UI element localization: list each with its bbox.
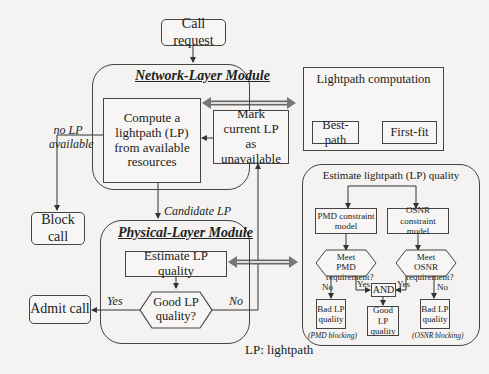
yes-label: Yes [107, 294, 123, 309]
mark-unavailable-node: Mark current LP as unavailable [213, 110, 289, 164]
physical-module-title: Physical-Layer Module [118, 225, 253, 241]
no-label: No [229, 294, 243, 309]
osnr-constraint-model-node: OSNR constraint model [387, 208, 449, 234]
admit-call-node: Admit call [29, 295, 91, 324]
pmd-blocking-label: (PMD blocking) [308, 331, 357, 340]
call-request-node: Call request [161, 19, 226, 46]
legend-text: LP: lightpath [245, 342, 313, 358]
candidate-lp-label: Candidate LP [164, 204, 231, 219]
block-call-node: Block call [31, 212, 85, 245]
estimate-lp-quality-node: Estimate LP quality [125, 251, 227, 277]
network-module-title: Network-Layer Module [135, 68, 270, 84]
bad-lp-quality-pmd-node: Bad LP quality [316, 299, 346, 329]
osnr-blocking-label: (OSNR blocking) [412, 331, 463, 340]
osnr-decision: Meet OSNR requirement? [406, 253, 446, 283]
no-lp-available-label: no LP available [49, 124, 87, 152]
pmd-yes-label: Yes [357, 279, 370, 289]
pmd-no-label: No [322, 282, 333, 292]
and-gate-node: AND [371, 283, 396, 297]
quality-panel-title: Estimate lightpath (LP) quality [302, 169, 480, 181]
good-lp-quality-decision: Good LP quality? [150, 295, 202, 324]
compute-lightpath-node: Compute a lightpath (LP) from available … [103, 98, 201, 183]
osnr-yes-label: Yes [397, 279, 410, 289]
best-path-node: Best-path [312, 121, 359, 144]
osnr-no-label: No [437, 282, 448, 292]
pmd-constraint-model-node: PMD constraint model [315, 208, 377, 234]
lightpath-computation-title: Lightpath computation [303, 72, 444, 87]
good-lp-quality-node: Good LP quality [367, 306, 399, 336]
bad-lp-quality-osnr-node: Bad LP quality [420, 299, 450, 329]
first-fit-node: First-fit [382, 121, 437, 144]
